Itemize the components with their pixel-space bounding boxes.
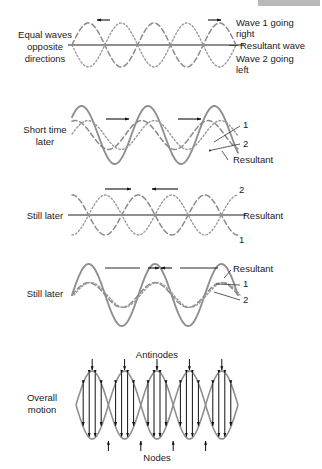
resultant-label: Resultant bbox=[243, 210, 283, 221]
panel-short-time-later: Short timelater12Resultant bbox=[23, 106, 273, 165]
series-2-label: 2 bbox=[243, 294, 248, 305]
nodes-label: Nodes bbox=[143, 452, 171, 463]
panel-label-line: opposite bbox=[27, 41, 63, 52]
resultant-label: Resultant bbox=[233, 263, 273, 274]
leader-resultant bbox=[222, 151, 228, 160]
series-2-label: 2 bbox=[243, 138, 248, 149]
series-1-label: 1 bbox=[239, 234, 244, 245]
panel-label-line: motion bbox=[28, 404, 57, 415]
panel-label-line: Short time bbox=[23, 124, 66, 135]
wave2-label: Wave 2 going bbox=[236, 53, 294, 64]
panel-label-line: Overall bbox=[27, 392, 57, 403]
panel-label-line: Still later bbox=[27, 210, 63, 221]
standing-wave-figure: Equal wavesoppositedirectionsWave 1 goin… bbox=[0, 0, 322, 469]
resultant-curve bbox=[72, 106, 238, 164]
resultant-label: Resultant bbox=[233, 154, 273, 165]
top-accent-bar bbox=[258, 0, 320, 6]
wave-1-curve bbox=[72, 283, 238, 308]
panel-overall-motion: OverallmotionAntinodesNodes bbox=[27, 349, 238, 463]
panel-label-line: later bbox=[36, 136, 54, 147]
panel-still-later-flat: Still later2Resultant1 bbox=[27, 184, 284, 245]
series-1-label: 1 bbox=[243, 278, 248, 289]
wave2-label: left bbox=[236, 64, 249, 75]
antinodes-label: Antinodes bbox=[136, 349, 179, 360]
leader-1 bbox=[216, 284, 240, 285]
wave1-label: right bbox=[236, 28, 255, 39]
resultant-label: Resultant wave bbox=[240, 40, 305, 51]
resultant-curve bbox=[72, 264, 238, 326]
panel-equal-waves: Equal wavesoppositedirectionsWave 1 goin… bbox=[18, 17, 305, 75]
panel-still-later-max: Still laterResultant12 bbox=[27, 263, 274, 326]
series-2-label: 2 bbox=[239, 184, 244, 195]
panel-label-line: Equal waves bbox=[18, 29, 72, 40]
panel-label-line: Still later bbox=[27, 288, 63, 299]
wave-2-curve bbox=[72, 121, 238, 150]
series-1-label: 1 bbox=[243, 119, 248, 130]
wave-2-curve bbox=[74, 283, 240, 308]
panel-label-line: directions bbox=[25, 53, 66, 64]
wave1-label: Wave 1 going bbox=[236, 17, 294, 28]
